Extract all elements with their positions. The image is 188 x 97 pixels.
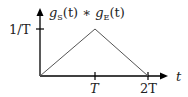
- convolution-plot: t T 2T 1/T gS(t) ∗ gE(t): [0, 0, 188, 97]
- tick-label-T: T: [90, 81, 100, 96]
- x-axis-arrow-icon: [160, 73, 168, 80]
- y-axis-arrow-icon: [37, 8, 44, 16]
- tick-label-1overT: 1/T: [9, 22, 31, 37]
- function-label: gS(t) ∗ gE(t): [49, 5, 125, 22]
- tick-label-2T: 2T: [140, 81, 157, 96]
- triangle-curve: [40, 29, 148, 76]
- x-axis-label: t: [176, 69, 182, 84]
